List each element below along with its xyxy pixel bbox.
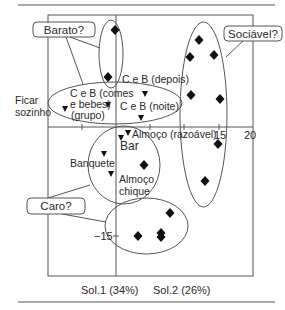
sol1-label: Sol.1 (34%) (81, 284, 138, 296)
plot-frame (48, 15, 253, 276)
callout-sociavel: Sociável? (224, 26, 282, 41)
diamond-marker-icon (140, 160, 149, 170)
callout-sociavel-text: Sociável? (228, 28, 278, 40)
sol2-label: Sol.2 (26%) (153, 284, 210, 296)
diamond-marker-icon (195, 35, 204, 45)
triangle-marker-icon (108, 171, 114, 177)
caro-ellipse (105, 198, 188, 254)
repertory-grid-plot: Barato? Sociável? Caro? C e B ( (0, 0, 285, 310)
label-ficar: Ficar (15, 94, 39, 106)
diamond-marker-icon (166, 208, 175, 218)
triangle-marker-icon (138, 115, 144, 121)
diamond-marker-icon (201, 176, 210, 186)
callout-barato-text: Barato? (44, 24, 84, 36)
label-almoco-chique-1: Almoço (119, 173, 154, 185)
y-tick-label-neg15: −15 (94, 230, 113, 242)
label-ceb-noite: C e B (noite) (120, 100, 179, 112)
label-ceb-grupo: (grupo) (71, 109, 105, 121)
label-bar: Bar (120, 139, 139, 153)
triangle-marker-icon (62, 106, 68, 112)
triangle-marker-icon (142, 91, 148, 97)
x-tick-label-20: 20 (244, 129, 256, 141)
label-ceb-depois: C e B (depois) (122, 73, 189, 85)
diamond-marker-icon (186, 52, 195, 62)
diamond-marker-icon (134, 231, 143, 241)
diamond-marker-icon (216, 94, 225, 104)
callout-barato: Barato? (33, 22, 95, 37)
label-sozinho: sozinho (15, 106, 51, 118)
callout-caro: Caro? (27, 198, 85, 214)
diamond-marker-icon (187, 90, 196, 100)
triangle-marker-icon (125, 130, 131, 136)
callout-caro-text: Caro? (40, 200, 71, 212)
diamond-marker-icon (210, 50, 219, 60)
label-almoco-chique-2: chique (119, 185, 150, 197)
label-almoco-razoavel: Almoço (razoável) (132, 128, 217, 140)
x-tick-label-15: 15 (214, 129, 226, 141)
diamond-marker-icon (104, 72, 113, 82)
label-banquete: Banquete (70, 157, 115, 169)
